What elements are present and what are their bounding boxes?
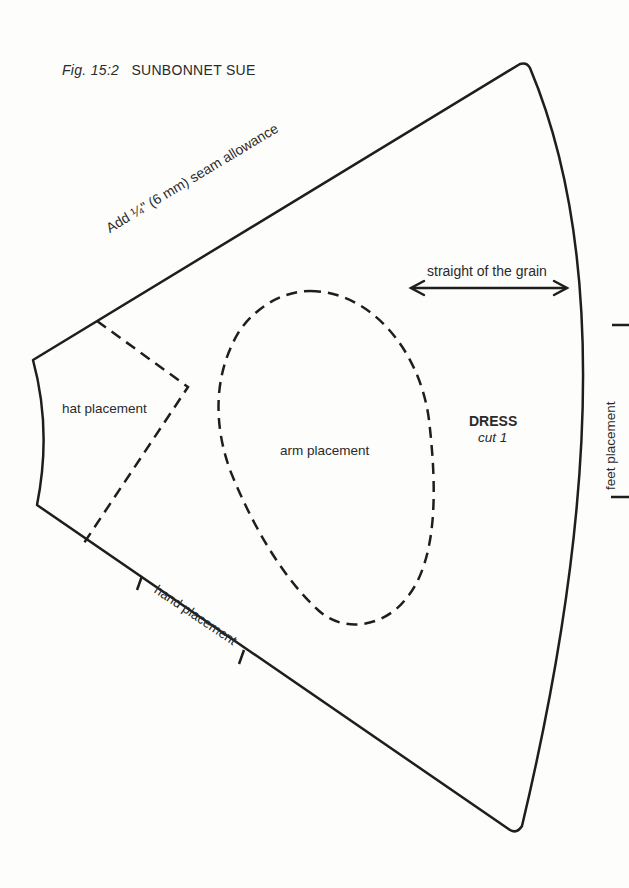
hat-placement-line bbox=[82, 321, 188, 546]
piece-name: DRESS bbox=[469, 413, 517, 429]
pattern-page: Fig. 15:2 SUNBONNET SUE Add ¼" (6 mm) se… bbox=[0, 0, 629, 888]
figure-title: SUNBONNET SUE bbox=[131, 62, 255, 78]
cut-instruction: cut 1 bbox=[478, 430, 507, 445]
grain-label: straight of the grain bbox=[427, 263, 547, 279]
grain-arrow bbox=[411, 281, 567, 295]
figure-number: Fig. 15:2 bbox=[62, 62, 119, 78]
figure-caption: Fig. 15:2 SUNBONNET SUE bbox=[62, 62, 256, 78]
feet-placement-label: feet placement bbox=[603, 401, 618, 490]
hat-placement-label: hat placement bbox=[62, 401, 147, 416]
arm-placement-label: arm placement bbox=[280, 443, 369, 458]
